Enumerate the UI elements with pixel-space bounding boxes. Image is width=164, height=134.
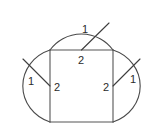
geometry-figure-canvas: 1 2 1 2 2 1: [0, 0, 164, 134]
label-right-radius: 1: [130, 73, 136, 85]
left-semicircle-arc: [23, 50, 50, 122]
top-semicircle-arc: [50, 34, 113, 50]
right-semicircle-arc: [113, 50, 140, 122]
label-left-diameter: 2: [54, 81, 60, 93]
label-left-radius: 1: [28, 75, 34, 87]
label-top-diameter: 2: [78, 54, 84, 66]
label-right-diameter: 2: [103, 81, 109, 93]
label-top-radius: 1: [82, 23, 88, 35]
composite-shape-diagram: 1 2 1 2 2 1: [0, 0, 164, 134]
